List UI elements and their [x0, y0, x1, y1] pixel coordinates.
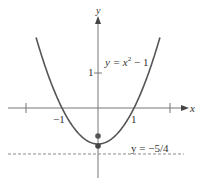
- graph-canvas: [0, 0, 199, 182]
- x-axis-arrow-icon: [181, 105, 189, 111]
- directrix-label: y = −5/4: [131, 143, 168, 154]
- x-tick-neg1-label: −1: [53, 114, 65, 125]
- curve-label-base: y = x: [105, 56, 128, 68]
- curve-label-suffix: − 1: [131, 56, 148, 68]
- y-axis-arrow-icon: [95, 16, 101, 24]
- vertex-point: [95, 143, 101, 149]
- parabola-diagram: y x 1 −1 1 y = x2 − 1 y = −5/4: [0, 0, 199, 182]
- x-axis-label: x: [190, 103, 195, 114]
- y-tick-1-label: 1: [88, 67, 94, 78]
- curve-equation-label: y = x2 − 1: [105, 56, 148, 68]
- x-tick-pos1-label: 1: [131, 114, 137, 125]
- focus-point: [95, 133, 101, 139]
- y-axis-label: y: [96, 6, 100, 16]
